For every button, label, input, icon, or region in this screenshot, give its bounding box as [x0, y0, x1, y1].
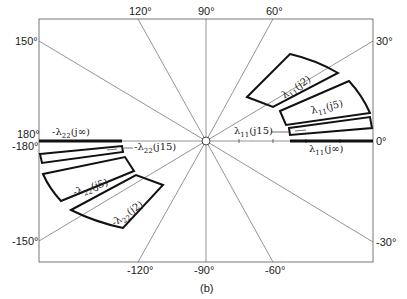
phase-diagram — [0, 0, 407, 299]
angle-label-neg60: -60° — [265, 265, 285, 276]
angle-label-120: 120° — [129, 6, 152, 17]
angle-label-60: 60° — [266, 6, 283, 17]
angle-label-30: 30° — [376, 36, 393, 47]
label-l22-j15: -λ22(j15) — [134, 142, 176, 155]
angle-label-neg90: -90° — [194, 265, 214, 276]
l11-j15-region — [289, 117, 372, 135]
figure-caption: (b) — [200, 283, 213, 294]
origin-marker — [202, 137, 210, 145]
angle-label-neg180: -180° — [12, 141, 38, 152]
label-l11-j15: λ11(j15) — [234, 126, 273, 139]
angle-label-neg120: -120° — [127, 265, 153, 276]
angle-label-90: 90° — [198, 6, 215, 17]
label-l11-jinf: λ11(j∞) — [309, 144, 344, 157]
angle-label-150: 150° — [15, 36, 38, 47]
angle-label-neg150: -150° — [12, 236, 38, 247]
angle-label-0: 0° — [376, 136, 387, 147]
label-l22-jinf: -λ22(j∞) — [52, 127, 90, 140]
angle-label-180: 180° — [17, 129, 40, 140]
angle-label-neg30: -30° — [376, 237, 396, 248]
